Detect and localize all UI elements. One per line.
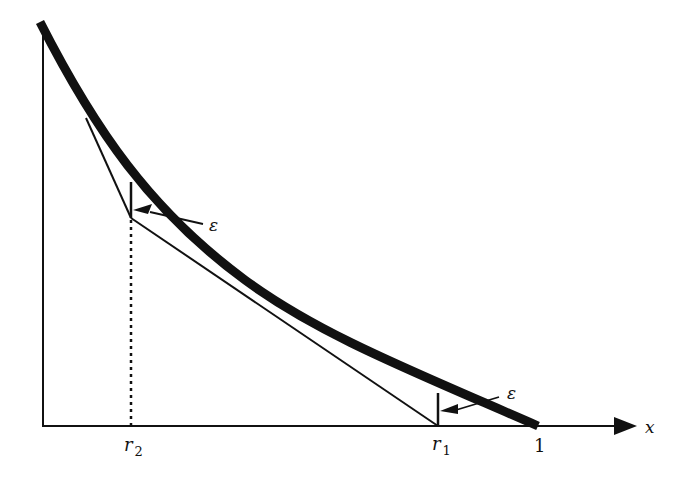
r1-label-main: r [432,433,442,454]
r1-label: r1 [432,433,451,458]
r2-label-subscript: 2 [135,444,143,459]
epsilon-upper-label: ε [209,215,218,235]
epsilon-lower-label: ε [507,383,516,403]
r2-label-main: r [124,434,134,455]
epsilon-upper-arrow-icon [133,204,152,214]
r2-label: r2 [124,434,143,459]
convex-curve [40,22,538,426]
diagram-canvas: ε ε r2 r1 1 x [0,0,692,487]
x-axis-arrow-icon [614,417,637,435]
r1-label-subscript: 1 [443,443,451,458]
tangent-line-lower [131,218,438,426]
x-axis-label: x [645,417,655,437]
epsilon-lower-arrow-icon [440,404,458,414]
one-label: 1 [534,435,545,456]
